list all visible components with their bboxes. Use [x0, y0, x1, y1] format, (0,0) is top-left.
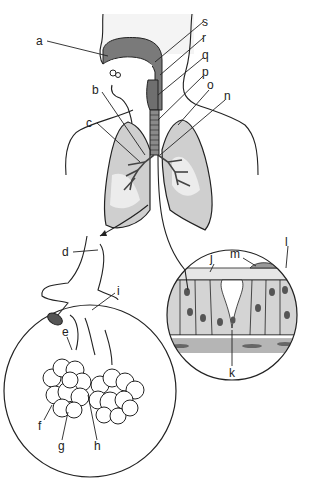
label-i: i	[117, 285, 120, 297]
label-c: c	[86, 117, 92, 129]
epithelium-inset	[160, 250, 310, 380]
label-o: o	[207, 79, 214, 91]
label-a: a	[36, 35, 43, 47]
respiratory-diagram: a b c d e f g h i j k l m n o p q r s	[0, 0, 310, 481]
label-m: m	[230, 248, 240, 260]
label-l: l	[285, 236, 288, 248]
diagram-artwork	[0, 0, 310, 481]
label-p: p	[202, 66, 209, 78]
mucus-layer	[160, 268, 310, 280]
label-h: h	[94, 440, 101, 452]
larynx	[147, 80, 158, 110]
label-q: q	[202, 49, 209, 61]
label-d: d	[62, 246, 69, 258]
label-r: r	[202, 32, 206, 44]
bronchiole-outline-right	[98, 244, 118, 300]
label-e: e	[62, 326, 69, 338]
chin-outline	[111, 85, 132, 125]
label-g: g	[58, 440, 65, 452]
label-b: b	[92, 84, 99, 96]
alveoli-inset-circle	[4, 305, 176, 477]
basement-membrane	[160, 335, 310, 339]
label-s: s	[202, 16, 208, 28]
label-k: k	[229, 367, 235, 379]
label-j: j	[210, 252, 213, 264]
trachea	[150, 110, 159, 155]
label-n: n	[224, 90, 231, 102]
label-f: f	[38, 420, 41, 432]
